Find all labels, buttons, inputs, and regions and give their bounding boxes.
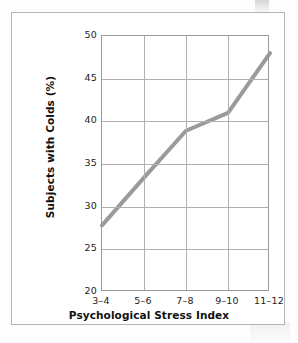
gridline-horizontal [102,249,268,250]
x-axis-title: Psychological Stress Index [12,309,286,321]
gridline-vertical [228,36,229,290]
gridline-vertical [186,36,187,290]
x-axis-tick-labels: 3–45–67–89–1011–12 [101,295,269,309]
gridline-horizontal [102,121,268,122]
y-tick-label: 30 [73,201,97,211]
gridline-horizontal [102,207,268,208]
gridline-horizontal [102,79,268,80]
x-tick-label: 11–12 [254,295,284,306]
y-tick-label: 25 [73,243,97,253]
x-tick-label: 5–6 [134,295,151,306]
plot-area [101,35,269,291]
y-axis-tick-labels: 50454035302520 [69,35,97,291]
y-tick-label: 40 [73,115,97,125]
x-tick-label: 7–8 [176,295,193,306]
y-axis-title: Subjects with Colds (%) [44,37,56,257]
y-tick-label: 50 [73,30,97,40]
x-tick-label: 3–4 [92,295,109,306]
gridline-vertical [144,36,145,290]
chart-figure-card: 50454035302520 3–45–67–89–1011–12 Psycho… [11,12,285,325]
y-tick-label: 35 [73,158,97,168]
x-tick-label: 9–10 [215,295,239,306]
y-tick-label: 45 [73,73,97,83]
gridline-horizontal [102,164,268,165]
